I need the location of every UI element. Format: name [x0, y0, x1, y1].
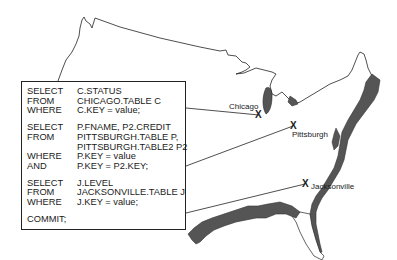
- sql-line: WHEREJ.KEY = value;: [27, 198, 185, 208]
- east-coast: [308, 74, 380, 254]
- city-label-pittsburgh: Pittsburgh: [292, 130, 328, 139]
- lake-michigan: [263, 87, 272, 114]
- sql-statement-jacksonville: SELECTJ.LEVEL FROMJACKSONVILLE.TABLE J W…: [27, 179, 185, 208]
- site-marker-jacksonville: X: [302, 179, 309, 189]
- sql-line: ANDP.KEY = P2.KEY;: [27, 162, 185, 172]
- sql-argument: J.KEY = value;: [77, 198, 138, 208]
- sql-transaction-box: SELECTC.STATUS FROMCHICAGO.TABLE C WHERE…: [21, 81, 186, 230]
- city-label-jacksonville: Jacksonville: [311, 182, 354, 191]
- site-marker-pittsburgh: X: [290, 121, 297, 131]
- site-marker-chicago: X: [255, 110, 262, 120]
- sql-statement-pittsburgh: SELECTP.FNAME, P2.CREDIT FROMPITTSBURGH.…: [27, 123, 185, 172]
- sql-argument: C.KEY = value;: [77, 106, 140, 116]
- sql-keyword: FROM: [27, 133, 77, 143]
- link-pittsburgh: [186, 126, 293, 166]
- sql-keyword: WHERE: [27, 198, 77, 208]
- sql-keyword: COMMIT;: [27, 215, 77, 225]
- city-label-chicago: Chicago: [229, 102, 258, 111]
- sql-statement-chicago: SELECTC.STATUS FROMCHICAGO.TABLE C WHERE…: [27, 87, 185, 116]
- sql-keyword: WHERE: [27, 106, 77, 116]
- sql-line: WHEREC.KEY = value;: [27, 106, 185, 116]
- chesapeake: [332, 128, 340, 150]
- sql-argument: P.KEY = P2.KEY;: [77, 162, 148, 172]
- lake-erie: [288, 96, 298, 106]
- sql-line: COMMIT;: [27, 215, 185, 225]
- sql-statement-commit: COMMIT;: [27, 215, 185, 225]
- florida: [292, 212, 324, 260]
- sql-keyword: AND: [27, 162, 77, 172]
